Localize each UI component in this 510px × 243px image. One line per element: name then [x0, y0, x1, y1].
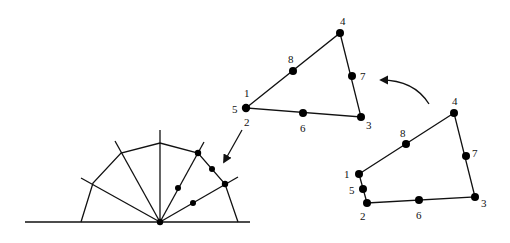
- label-2: 2: [244, 116, 250, 128]
- node-6: [299, 109, 307, 117]
- mesh-node: [222, 181, 228, 187]
- mesh-node: [175, 185, 181, 191]
- mesh-node: [195, 150, 201, 156]
- label-6: 6: [416, 209, 422, 221]
- node-6: [415, 196, 423, 204]
- node-8: [289, 67, 297, 75]
- label-4: 4: [340, 15, 346, 27]
- quad-element: 1 5 2 6 3 7 4 8: [344, 95, 487, 222]
- quad-outline: [359, 113, 475, 203]
- node-5: [359, 185, 367, 193]
- label-6: 6: [300, 122, 306, 134]
- mesh-node: [157, 219, 163, 225]
- node-1: [355, 170, 363, 178]
- label-3: 3: [481, 197, 487, 209]
- label-5: 5: [232, 103, 238, 115]
- node-3: [471, 193, 479, 201]
- triangle-element: 1 5 2 8 4 7 3 6: [232, 15, 372, 134]
- node-2: [363, 199, 371, 207]
- label-8: 8: [400, 127, 406, 139]
- diagram-canvas: 1 5 2 8 4 7 3 6 1 5 2 6 3 7 4 8: [0, 0, 510, 243]
- label-7: 7: [472, 147, 478, 159]
- label-5: 5: [349, 184, 355, 196]
- half-disk-mesh: [25, 130, 250, 225]
- label-2: 2: [360, 210, 366, 222]
- label-8: 8: [288, 53, 294, 65]
- label-7: 7: [360, 70, 366, 82]
- label-1: 1: [344, 168, 350, 180]
- node-3: [357, 113, 365, 121]
- mesh-node: [190, 200, 196, 206]
- node-1-5-2: [242, 104, 250, 112]
- mesh-node: [209, 166, 215, 172]
- label-3: 3: [366, 119, 372, 131]
- triangle-to-halfdisk-arrow: [224, 130, 242, 162]
- node-4: [336, 29, 344, 37]
- node-7: [462, 152, 470, 160]
- label-1: 1: [244, 87, 250, 99]
- node-8: [402, 140, 410, 148]
- triangle-outline: [246, 33, 361, 117]
- node-7: [348, 72, 356, 80]
- quad-to-triangle-arrow: [381, 80, 429, 104]
- node-4: [450, 109, 458, 117]
- label-4: 4: [452, 95, 458, 107]
